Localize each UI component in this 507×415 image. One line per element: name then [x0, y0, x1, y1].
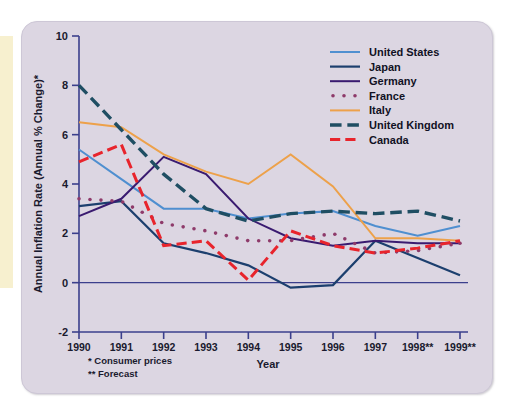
- data-dot: [203, 229, 207, 233]
- x-tick-label: 1998**: [402, 341, 434, 353]
- legend-swatch-dot: [331, 94, 335, 98]
- series-canada: [79, 145, 460, 281]
- legend-item-italy[interactable]: Italy: [330, 104, 392, 116]
- data-dot: [363, 246, 367, 250]
- data-dot: [131, 205, 135, 209]
- data-dot: [140, 210, 144, 214]
- data-dot: [235, 236, 239, 240]
- data-dot: [181, 225, 185, 229]
- data-dot: [257, 239, 261, 243]
- legend-label: France: [369, 90, 405, 102]
- x-tick-label: 1993: [194, 341, 218, 353]
- legend-label: Italy: [369, 104, 392, 116]
- y-tick-label: 2: [62, 227, 68, 239]
- y-tick-label: 4: [62, 178, 69, 190]
- data-dot: [406, 249, 410, 253]
- data-dot: [322, 233, 326, 237]
- legend: United StatesJapanGermanyFranceItalyUnit…: [330, 46, 454, 146]
- y-tick-label: -2: [58, 326, 68, 338]
- legend-label: Canada: [369, 134, 410, 146]
- data-dot: [301, 237, 305, 241]
- y-tick-label: 6: [62, 129, 68, 141]
- data-series-group: [77, 85, 462, 287]
- data-dot: [171, 223, 175, 227]
- series-france: [77, 197, 462, 255]
- chart-canvas: -20246810 199019911992199319941995199619…: [0, 0, 507, 415]
- data-dot: [353, 242, 357, 246]
- x-axis: 199019911992199319941995199619971998**19…: [67, 332, 476, 353]
- chart-figure: -20246810 199019911992199319941995199619…: [0, 0, 507, 415]
- legend-label: United States: [369, 46, 439, 58]
- x-tick-label: 1994: [237, 341, 261, 353]
- footnote: * Consumer prices: [88, 355, 172, 366]
- legend-label: Germany: [369, 75, 418, 87]
- legend-swatch-dot: [342, 94, 346, 98]
- data-dot: [246, 239, 250, 243]
- x-tick-label: 1992: [152, 341, 176, 353]
- data-dot: [290, 239, 294, 243]
- data-dot: [121, 200, 125, 204]
- x-tick-label: 1995: [279, 341, 303, 353]
- data-dot: [214, 231, 218, 235]
- legend-item-united-kingdom[interactable]: United Kingdom: [330, 119, 454, 131]
- x-axis-title: Year: [256, 358, 280, 370]
- legend-item-japan[interactable]: Japan: [330, 61, 401, 73]
- y-axis-title: Annual Inflation Rate (Annual % Change)*: [32, 74, 44, 293]
- footnotes: * Consumer prices** Forecast: [88, 355, 172, 379]
- series-japan: [79, 201, 460, 287]
- y-tick-label: 0: [62, 277, 68, 289]
- data-dot: [268, 239, 272, 243]
- data-dot: [99, 198, 103, 202]
- data-dot: [224, 234, 228, 238]
- x-tick-label: 1999**: [444, 341, 476, 353]
- legend-swatch-dot: [353, 94, 357, 98]
- series-united-kingdom: [79, 85, 460, 221]
- y-tick-label: 10: [56, 30, 68, 42]
- legend-label: United Kingdom: [369, 119, 454, 131]
- legend-item-united-states[interactable]: United States: [330, 46, 439, 58]
- data-dot: [77, 197, 81, 201]
- data-dot: [160, 221, 164, 225]
- x-tick-label: 1990: [67, 341, 91, 353]
- data-dot: [110, 199, 114, 203]
- data-dot: [343, 237, 347, 241]
- legend-item-germany[interactable]: Germany: [330, 75, 418, 87]
- x-tick-label: 1996: [321, 341, 345, 353]
- axis-labels: Annual Inflation Rate (Annual % Change)*…: [32, 74, 280, 370]
- legend-item-canada[interactable]: Canada: [330, 134, 410, 146]
- legend-label: Japan: [369, 61, 401, 73]
- y-tick-label: 8: [62, 79, 68, 91]
- series-united-states: [79, 149, 460, 235]
- data-dot: [88, 198, 92, 202]
- data-dot: [192, 227, 196, 231]
- x-tick-label: 1991: [110, 341, 134, 353]
- data-dot: [333, 232, 337, 236]
- legend-item-france[interactable]: France: [331, 90, 405, 102]
- x-tick-label: 1997: [364, 341, 388, 353]
- footnote: ** Forecast: [88, 368, 138, 379]
